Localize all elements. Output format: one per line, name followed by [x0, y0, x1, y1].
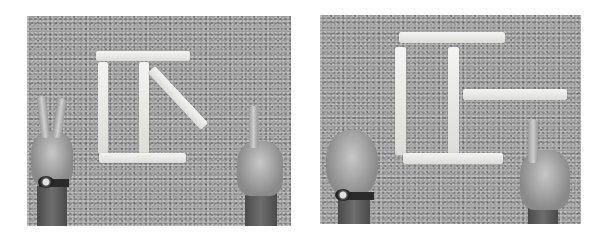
stick-bottom-horizontal	[403, 153, 503, 164]
stick-bottom-horizontal	[99, 153, 186, 163]
stick-top-horizontal	[96, 51, 190, 61]
photo-right-panel	[320, 15, 581, 224]
right-index-finger	[528, 119, 538, 163]
left-fist	[326, 130, 378, 198]
left-index-finger	[37, 96, 50, 139]
stick-right-horizontal	[463, 89, 567, 100]
photo-left-panel	[27, 16, 291, 226]
wristwatch-icon	[335, 189, 351, 201]
right-hand	[237, 141, 283, 196]
stick-left-vertical	[98, 62, 108, 154]
right-arm	[245, 191, 277, 226]
stick-middle-vertical	[139, 62, 149, 154]
right-index-finger	[249, 106, 258, 148]
left-middle-finger	[52, 98, 66, 139]
wristwatch-icon	[38, 176, 54, 188]
stick-middle-vertical	[448, 47, 459, 155]
stick-diagonal	[148, 66, 209, 130]
left-arm	[37, 186, 67, 226]
stick-left-vertical	[395, 47, 406, 155]
stick-top-horizontal	[399, 32, 505, 43]
